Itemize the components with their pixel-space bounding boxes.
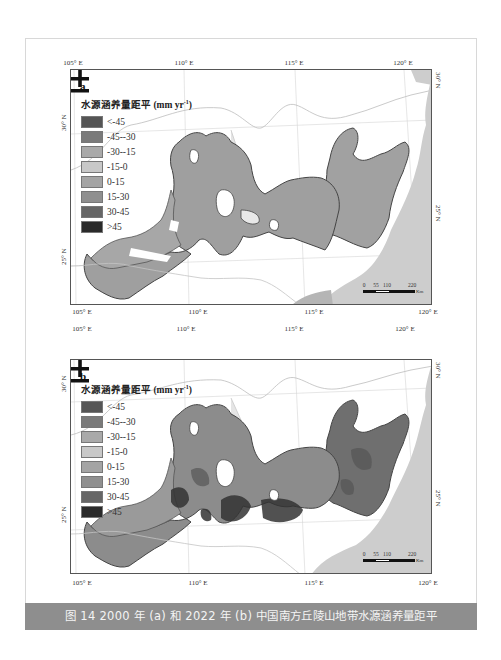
legend-swatch <box>81 161 103 173</box>
lon-tick: 105° E <box>72 308 91 316</box>
legend-swatch <box>81 461 103 473</box>
legend-title: 水源涵养量距平 (mm yr-1) <box>81 97 192 111</box>
legend-item: >45 <box>81 219 192 234</box>
legend-item: 0-15 <box>81 174 192 189</box>
legend-item: 30-45 <box>81 204 192 219</box>
legend-item: -45--30 <box>81 129 192 144</box>
lat-tick: 30° N <box>60 375 68 392</box>
legend-swatch <box>81 476 103 488</box>
lon-tick: 120° E <box>395 325 414 333</box>
lon-tick: 115° E <box>304 579 323 587</box>
lon-tick: 110° E <box>174 59 193 67</box>
legend-item: 15-30 <box>81 474 192 489</box>
legend-a: 水源涵养量距平 (mm yr-1) <-45 -45--30 -30--15 -… <box>81 97 192 234</box>
legend-swatch <box>81 401 103 413</box>
scale-bar: 0 55 110 220 Km <box>363 551 421 567</box>
north-arrow-icon <box>71 360 89 384</box>
legend-swatch <box>81 506 103 518</box>
legend-swatch <box>81 116 103 128</box>
map-panel-b: b 水源涵养量距平 (mm yr-1) <-45 -45--30 -30--15… <box>70 359 432 574</box>
lon-tick: 105° E <box>72 579 91 587</box>
legend-swatch <box>81 431 103 443</box>
legend-swatch <box>81 416 103 428</box>
legend-b: 水源涵养量距平 (mm yr-1) <-45 -45--30 -30--15 -… <box>81 382 192 519</box>
lon-tick: 120° E <box>393 59 412 67</box>
lon-tick: 105° E <box>63 59 82 67</box>
scale-bar: 0 55 110 220 Km <box>363 282 421 298</box>
lon-tick: 105° E <box>72 325 91 333</box>
legend-item: -30--15 <box>81 429 192 444</box>
legend-item: <-45 <box>81 399 192 414</box>
legend-title: 水源涵养量距平 (mm yr-1) <box>81 382 192 396</box>
legend-swatch <box>81 176 103 188</box>
lat-tick: 30° N <box>434 72 442 89</box>
lon-tick: 115° E <box>304 308 323 316</box>
legend-item: -45--30 <box>81 414 192 429</box>
lon-tick: 110° E <box>176 325 195 333</box>
legend-swatch <box>81 131 103 143</box>
legend-item: >45 <box>81 504 192 519</box>
figure-caption: 图 14 2000 年 (a) 和 2022 年 (b) 中国南方丘陵山地带水源… <box>25 603 477 630</box>
legend-swatch <box>81 221 103 233</box>
legend-item: -15-0 <box>81 159 192 174</box>
lon-tick: 120° E <box>418 579 437 587</box>
north-arrow-icon <box>71 70 89 94</box>
legend-item: 0-15 <box>81 459 192 474</box>
lon-tick: 110° E <box>188 579 207 587</box>
legend-item: 30-45 <box>81 489 192 504</box>
lat-tick: 25° N <box>60 248 68 265</box>
legend-item: -15-0 <box>81 444 192 459</box>
legend-item: -30--15 <box>81 144 192 159</box>
legend-swatch <box>81 491 103 503</box>
legend-swatch <box>81 146 103 158</box>
lat-tick: 30° N <box>434 362 442 379</box>
lon-tick: 120° E <box>418 308 437 316</box>
map-panel-a: a 水源涵养量距平 (mm yr-1) <-45 -45--30 -30--15… <box>70 69 432 305</box>
lat-tick: 30° N <box>60 114 68 131</box>
legend-item: <-45 <box>81 114 192 129</box>
lat-tick: 25° N <box>434 490 442 507</box>
lon-tick: 115° E <box>284 59 303 67</box>
lon-tick: 115° E <box>284 325 303 333</box>
legend-swatch <box>81 206 103 218</box>
legend-item: 15-30 <box>81 189 192 204</box>
lon-tick: 110° E <box>188 308 207 316</box>
legend-swatch <box>81 446 103 458</box>
legend-swatch <box>81 191 103 203</box>
lat-tick: 25° N <box>60 506 68 523</box>
lat-tick: 25° N <box>434 205 442 222</box>
